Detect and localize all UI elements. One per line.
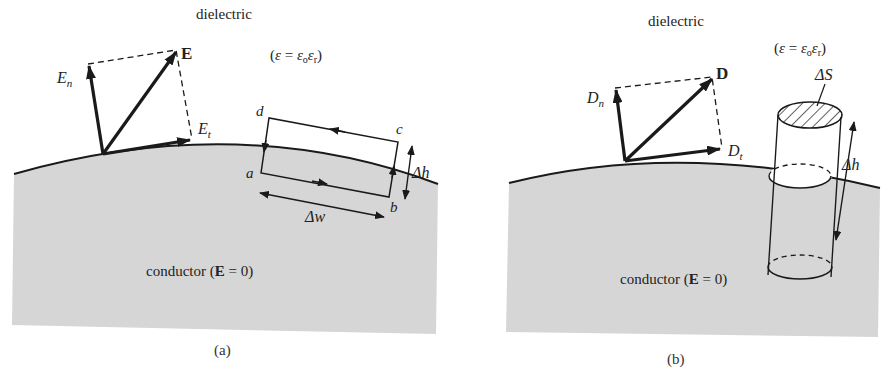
surface-delta-s [778,102,842,128]
corner-d-label: d [256,103,264,119]
delta-w-label: Δw [304,208,325,225]
vector-en-label: En [56,69,73,89]
corner-b-label: b [390,199,398,215]
component-dashed-lines-b [615,77,722,148]
corner-c-label: c [396,121,403,137]
vector-dn-label: Dn [586,89,605,109]
vector-d-arrow [625,79,712,161]
delta-h-label-a: Δh [411,164,429,181]
conductor-label-b: conductor (E = 0) [620,271,727,288]
vector-e-label: E [181,44,192,63]
vector-dn-arrow [616,90,625,161]
gaussian-pillbox [765,102,842,290]
panel-b: dielectric (ε = εoεr) D Dn Dt ΔS Δh cond… [506,13,880,368]
caption-b: (b) [667,351,685,368]
conductor-label-a: conductor (E = 0) [146,263,253,280]
vector-dt-label: Dt [727,142,744,162]
conductor-region-a [12,144,438,334]
corner-a-label: a [246,165,254,181]
component-dashed-lines-a [88,50,192,139]
vector-et-label: Et [197,120,212,140]
permittivity-label-b: (ε = εoεr) [774,40,826,58]
vector-e-arrow [103,52,176,154]
delta-h-label-b: Δh [841,156,859,173]
vector-dt-arrow [625,149,720,161]
permittivity-label-a: (ε = εoεr) [270,47,322,65]
vector-en-arrow [89,66,103,154]
figure: dielectric (ε = εoεr) E En Et d c a b Δh… [0,0,888,383]
dielectric-label-a: dielectric [196,6,252,22]
dielectric-label-b: dielectric [648,13,704,29]
panel-a: dielectric (ε = εoεr) E En Et d c a b Δh… [12,6,438,359]
delta-s-label: ΔS [814,66,832,83]
vector-d-label: D [716,64,728,83]
caption-a: (a) [214,342,231,359]
